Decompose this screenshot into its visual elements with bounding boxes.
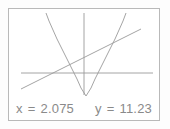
calculator-screen: x = 2.075 y = 11.23	[0, 0, 170, 129]
y-equals-sign: =	[107, 101, 115, 116]
y-variable-label: y	[95, 101, 102, 116]
coordinate-readout-bar: x = 2.075 y = 11.23	[9, 97, 159, 120]
x-value: 2.075	[41, 101, 75, 116]
y-value: 11.23	[119, 101, 152, 116]
x-coordinate-readout: x = 2.075	[16, 101, 74, 116]
y-coordinate-readout: y = 11.23	[95, 101, 152, 116]
graph-plot-area[interactable]	[9, 9, 159, 97]
straight-line-curve	[21, 29, 141, 89]
x-variable-label: x	[16, 101, 23, 116]
parabola-curve	[46, 13, 126, 96]
screen-frame: x = 2.075 y = 11.23	[8, 8, 160, 121]
x-equals-sign: =	[28, 101, 36, 116]
graph-svg	[9, 9, 159, 97]
